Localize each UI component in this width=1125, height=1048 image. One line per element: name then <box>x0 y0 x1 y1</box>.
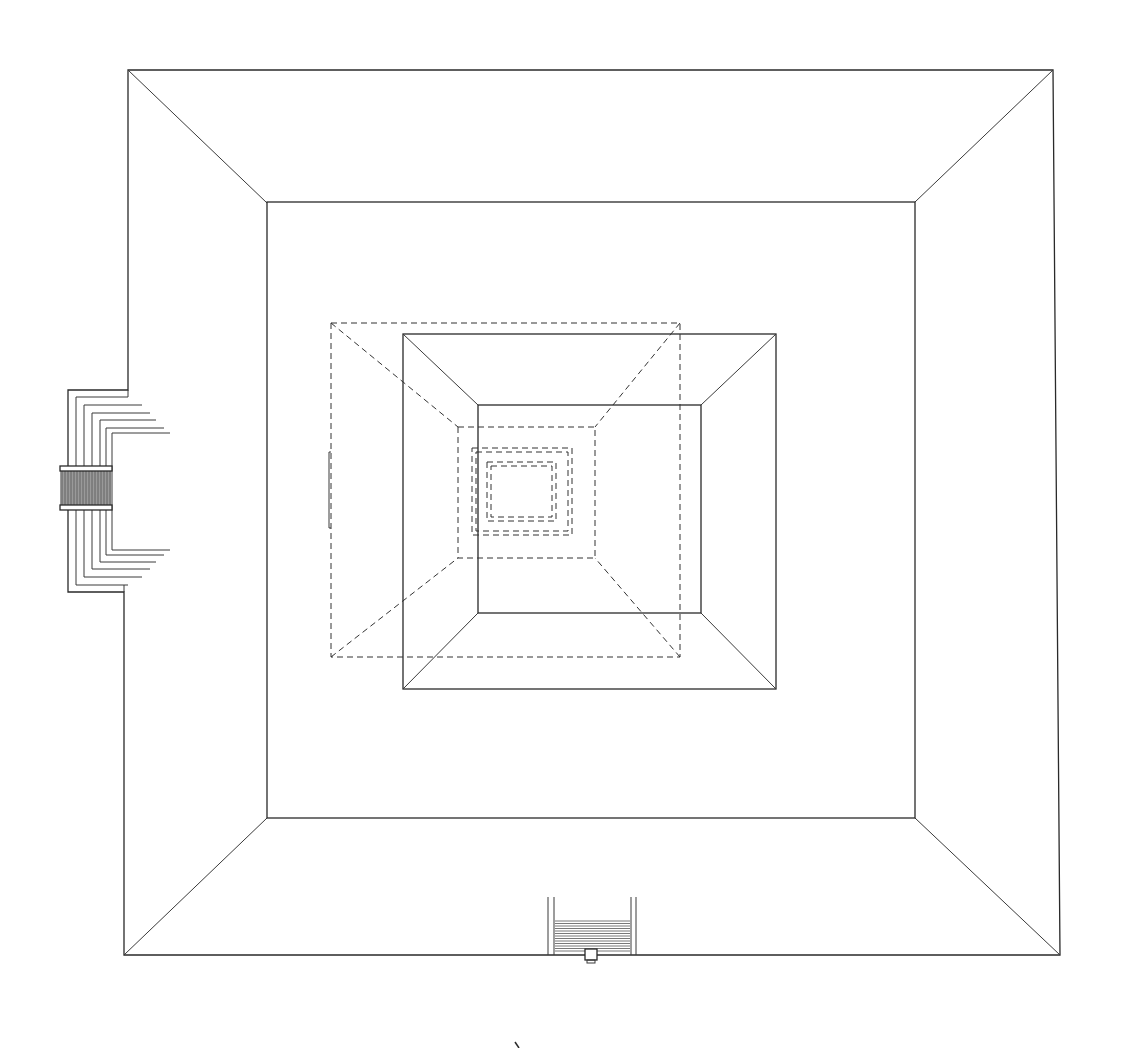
west-stair-balustrade-5 <box>106 428 164 555</box>
chamber-inner-b <box>491 466 552 517</box>
earlier-ridge-se <box>595 558 680 657</box>
pyramid-plan-drawing <box>0 0 1125 1048</box>
summit-ridge-se <box>701 613 776 689</box>
south-stair-altar-base <box>587 960 595 963</box>
corner-ridge-se <box>915 818 1060 955</box>
west-stair-band-bottom <box>60 505 112 510</box>
earlier-ridge-nw <box>331 323 458 427</box>
earlier-structure-dashed <box>329 323 680 657</box>
summit-ridge-nw <box>403 334 478 405</box>
summit-structure <box>403 334 776 689</box>
corner-ridge-nw <box>128 70 267 203</box>
outer-platform-outline <box>68 70 1060 955</box>
summit-ridge-sw <box>403 613 478 689</box>
corner-ridge-ne <box>915 70 1053 202</box>
upper-terrace <box>267 202 915 818</box>
south-stairway <box>548 897 636 963</box>
summit-inner <box>478 405 701 613</box>
chamber-outer-b <box>476 452 568 531</box>
west-stair-band-top <box>60 466 112 471</box>
chamber-inner-a <box>487 462 556 521</box>
corner-ridge-sw <box>124 818 267 955</box>
earlier-ridge-ne <box>595 323 680 427</box>
north-arrow-mark <box>515 1042 519 1048</box>
south-stair-altar <box>585 949 597 960</box>
west-stairway <box>60 390 170 592</box>
summit-ridge-ne <box>701 334 776 405</box>
earlier-outer <box>331 323 680 657</box>
outer-platform <box>68 70 1060 955</box>
chamber-outer-a <box>472 448 572 535</box>
earlier-ridge-sw <box>331 558 458 657</box>
west-stair-balustrade-6 <box>112 433 170 550</box>
inner-chambers-dashed <box>472 448 572 535</box>
south-stair-treads <box>555 921 630 951</box>
